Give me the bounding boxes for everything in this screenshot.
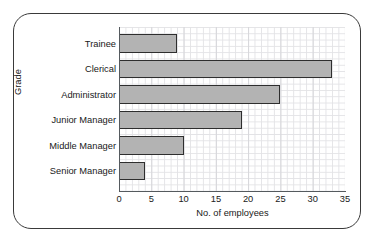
x-axis-title: No. of employees xyxy=(119,208,346,218)
xtick-label: 30 xyxy=(298,194,328,204)
bar-senior-manager xyxy=(119,162,145,181)
xtick-label: 10 xyxy=(169,194,199,204)
bar-clerical xyxy=(119,60,332,79)
xtick-label: 15 xyxy=(201,194,231,204)
plot-area xyxy=(119,27,345,191)
chart-figure: Trainee Clerical Administrator Junior Ma… xyxy=(0,0,376,245)
ytick-label-senior-manager: Senior Manager xyxy=(0,166,116,176)
xtick-label: 25 xyxy=(265,194,295,204)
xtick-label: 20 xyxy=(233,194,263,204)
xtick-label: 35 xyxy=(330,194,360,204)
xtick-label: 5 xyxy=(136,194,166,204)
ytick-label-middle-manager: Middle Manager xyxy=(0,141,116,151)
y-axis-line xyxy=(119,27,120,191)
ytick-label-junior-manager: Junior Manager xyxy=(0,115,116,125)
xtick-label: 0 xyxy=(104,194,134,204)
bar-junior-manager xyxy=(119,111,242,130)
bar-administrator xyxy=(119,85,280,104)
bar-middle-manager xyxy=(119,136,184,155)
bar-trainee xyxy=(119,34,177,53)
ytick-label-trainee: Trainee xyxy=(0,39,116,49)
x-axis-line xyxy=(119,191,346,192)
y-axis-title: Grade xyxy=(13,69,23,95)
